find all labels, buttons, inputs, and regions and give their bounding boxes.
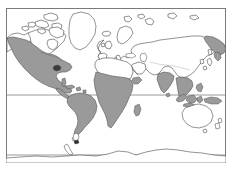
japan-south-outline bbox=[203, 66, 207, 70]
hispaniola-shaded bbox=[76, 87, 81, 91]
new-zealand-north-outline bbox=[218, 118, 222, 123]
korea-outline bbox=[200, 59, 204, 64]
ireland-outline bbox=[101, 43, 105, 47]
sri-lanka-shaded bbox=[166, 93, 170, 97]
world-map-svg bbox=[0, 0, 232, 172]
sakhalin-outline bbox=[208, 49, 212, 55]
world-map-figure: World distribution map bbox=[0, 0, 232, 172]
lesser-antilles-shaded bbox=[83, 90, 86, 93]
iceland-outline bbox=[102, 31, 111, 36]
tasmania-outline bbox=[203, 129, 207, 133]
new-zealand-south-outline bbox=[215, 123, 220, 129]
